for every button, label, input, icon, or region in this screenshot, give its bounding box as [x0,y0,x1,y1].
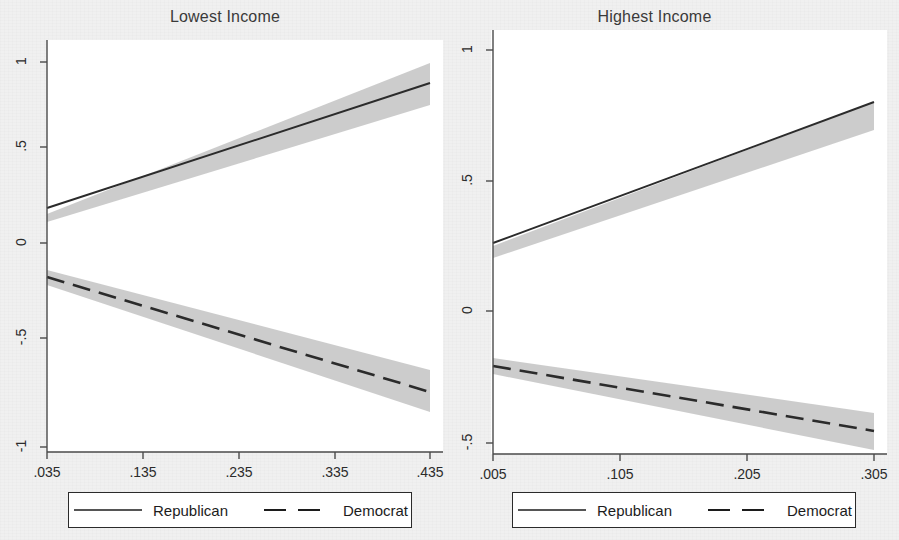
plot-area-lowest-income [0,0,450,540]
y-tick-label: 1 [459,34,475,64]
legend-key-dashed-icon [706,504,778,516]
legend-entry-republican[interactable]: Republican [72,502,228,519]
y-tick-label: .5 [13,131,29,161]
panel-lowest-income: Lowest Income [0,0,450,540]
x-tick-label: .305 [848,466,899,482]
x-tick-label: .005 [467,466,519,482]
y-tick-label: 0 [459,295,475,325]
legend-highest-income: Republican Democrat [512,492,856,528]
x-tick-label: .335 [309,464,361,480]
x-tick-label: .235 [213,464,265,480]
y-tick-label: .5 [459,165,475,195]
x-tick-label: .105 [594,466,646,482]
x-tick-label: .035 [21,464,73,480]
legend-entry-republican[interactable]: Republican [516,502,672,519]
y-tick-label: 0 [13,227,29,257]
legend-entry-democrat[interactable]: Democrat [262,502,408,519]
figure-root: Lowest Income [0,0,899,540]
x-tick-label: .435 [404,464,456,480]
panel-highest-income: Highest Income [450,0,899,540]
plot-area-highest-income [450,0,899,540]
x-tick-marks [47,452,430,459]
x-tick-label: .205 [721,466,773,482]
legend-label-democrat: Democrat [787,502,852,519]
legend-label-democrat: Democrat [343,502,408,519]
y-tick-label: -.5 [459,425,475,459]
legend-key-solid-icon [72,504,144,516]
y-tick-label: 1 [13,46,29,76]
y-tick-marks [40,62,47,447]
legend-label-republican: Republican [153,502,228,519]
legend-lowest-income: Republican Democrat [68,492,412,528]
legend-entry-democrat[interactable]: Democrat [706,502,852,519]
legend-key-dashed-icon [262,504,334,516]
x-tick-label: .135 [117,464,169,480]
x-tick-marks [493,454,874,461]
legend-label-republican: Republican [597,502,672,519]
legend-key-solid-icon [516,504,588,516]
y-tick-label: -1 [13,429,29,463]
y-tick-label: -.5 [13,320,29,354]
